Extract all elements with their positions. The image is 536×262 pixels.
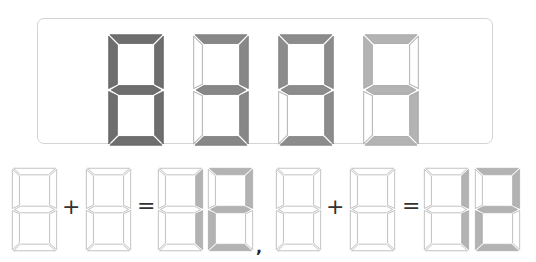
- segment-top-lit[interactable]: [476, 168, 518, 175]
- segment-bottom-left-off[interactable]: [350, 211, 357, 250]
- segment-top-lit[interactable]: [209, 168, 251, 175]
- segment-top-left-off: [194, 36, 203, 89]
- segment-bottom-lit: [110, 136, 162, 145]
- segment-bottom-right-off[interactable]: [50, 211, 57, 250]
- segment-bottom-left-lit: [109, 91, 118, 144]
- segment-top-right-lit[interactable]: [246, 169, 253, 208]
- segment-middle-off[interactable]: [14, 206, 54, 213]
- segment-bottom-left-off: [194, 91, 203, 144]
- segment-top-right-lit[interactable]: [462, 169, 469, 208]
- eq2-operand2-digit[interactable]: [349, 167, 396, 252]
- segment-top-off[interactable]: [13, 168, 55, 175]
- segment-bottom-right-lit: [325, 91, 334, 144]
- segment-top-lit: [365, 35, 417, 44]
- segment-bottom-left-off: [279, 91, 288, 144]
- segment-bottom-right-lit: [155, 91, 164, 144]
- eq2-result-tens-digit[interactable]: [423, 167, 470, 252]
- segment-bottom-left-off[interactable]: [158, 211, 165, 250]
- segment-bottom-lit: [280, 136, 332, 145]
- segment-bottom-left-off[interactable]: [86, 211, 93, 250]
- segment-middle-lit: [281, 86, 331, 95]
- segment-bottom-lit[interactable]: [209, 244, 251, 251]
- segment-middle-off[interactable]: [352, 206, 392, 213]
- segment-bottom-right-off[interactable]: [513, 211, 520, 250]
- segment-middle-off[interactable]: [160, 206, 200, 213]
- eq1-operand1-digit[interactable]: [11, 167, 58, 252]
- segment-top-left-off[interactable]: [276, 169, 283, 208]
- segment-bottom-left-off[interactable]: [424, 211, 431, 250]
- equation-separator-comma: ,: [256, 240, 262, 256]
- segment-middle-off[interactable]: [88, 206, 128, 213]
- segment-bottom-lit: [365, 136, 417, 145]
- segment-bottom-right-lit: [410, 91, 419, 144]
- segment-bottom-left-lit[interactable]: [475, 211, 482, 250]
- segment-top-off[interactable]: [87, 168, 129, 175]
- segment-top-right-off[interactable]: [314, 169, 321, 208]
- eq2-plus-sign: +: [326, 196, 344, 218]
- eq1-result-tens-digit[interactable]: [157, 167, 204, 252]
- segment-bottom-left-off[interactable]: [276, 211, 283, 250]
- panel-digit-2: [192, 33, 250, 147]
- segment-top-right-off[interactable]: [388, 169, 395, 208]
- segment-bottom-lit: [195, 136, 247, 145]
- segment-middle-lit[interactable]: [210, 206, 250, 213]
- segment-bottom-lit[interactable]: [476, 244, 518, 251]
- segment-bottom-off[interactable]: [351, 244, 393, 251]
- segment-bottom-off[interactable]: [159, 244, 201, 251]
- segment-middle-lit: [196, 86, 246, 95]
- eq1-result-ones-digit[interactable]: [207, 167, 254, 252]
- eq2-equals-sign: =: [402, 195, 420, 217]
- segment-bottom-off[interactable]: [87, 244, 129, 251]
- segment-bottom-right-lit[interactable]: [196, 211, 203, 250]
- segment-top-right-lit: [240, 36, 249, 89]
- segment-top-off[interactable]: [351, 168, 393, 175]
- eq2-operand1-digit[interactable]: [275, 167, 322, 252]
- segment-bottom-right-off[interactable]: [314, 211, 321, 250]
- segment-top-lit: [110, 35, 162, 44]
- segment-middle-off[interactable]: [426, 206, 466, 213]
- segment-middle-lit: [111, 86, 161, 95]
- segment-top-left-lit: [364, 36, 373, 89]
- segment-top-left-off[interactable]: [12, 169, 19, 208]
- segment-bottom-left-off: [364, 91, 373, 144]
- segment-top-left-off[interactable]: [350, 169, 357, 208]
- segment-bottom-right-lit: [240, 91, 249, 144]
- display-panel: [37, 18, 493, 144]
- segment-top-off[interactable]: [277, 168, 319, 175]
- segment-top-right-lit: [325, 36, 334, 89]
- segment-middle-lit[interactable]: [477, 206, 517, 213]
- segment-top-left-lit: [279, 36, 288, 89]
- segment-bottom-right-off[interactable]: [388, 211, 395, 250]
- segment-top-lit: [280, 35, 332, 44]
- segment-top-right-off: [410, 36, 419, 89]
- segment-bottom-right-off[interactable]: [246, 211, 253, 250]
- eq1-operand2-digit[interactable]: [85, 167, 132, 252]
- segment-top-left-off[interactable]: [475, 169, 482, 208]
- segment-bottom-left-lit[interactable]: [208, 211, 215, 250]
- segment-bottom-left-off[interactable]: [12, 211, 19, 250]
- segment-top-left-off[interactable]: [86, 169, 93, 208]
- panel-digit-1: [107, 33, 165, 147]
- segment-top-right-lit[interactable]: [513, 169, 520, 208]
- segment-top-right-off[interactable]: [50, 169, 57, 208]
- segment-top-right-off[interactable]: [124, 169, 131, 208]
- segment-top-left-off[interactable]: [208, 169, 215, 208]
- segment-bottom-right-off[interactable]: [124, 211, 131, 250]
- segment-bottom-off[interactable]: [13, 244, 55, 251]
- segment-top-left-lit: [109, 36, 118, 89]
- segment-bottom-right-lit[interactable]: [462, 211, 469, 250]
- segment-top-left-off[interactable]: [424, 169, 431, 208]
- panel-digit-3: [277, 33, 335, 147]
- segment-top-off[interactable]: [425, 168, 467, 175]
- segment-middle-lit: [366, 86, 416, 95]
- segment-top-right-lit[interactable]: [196, 169, 203, 208]
- eq1-equals-sign: =: [137, 195, 155, 217]
- eq1-plus-sign: +: [62, 196, 80, 218]
- segment-bottom-off[interactable]: [277, 244, 319, 251]
- segment-top-off[interactable]: [159, 168, 201, 175]
- segment-middle-off[interactable]: [278, 206, 318, 213]
- segment-bottom-off[interactable]: [425, 244, 467, 251]
- eq2-result-ones-digit[interactable]: [474, 167, 521, 252]
- panel-digit-4: [362, 33, 420, 147]
- segment-top-left-off[interactable]: [158, 169, 165, 208]
